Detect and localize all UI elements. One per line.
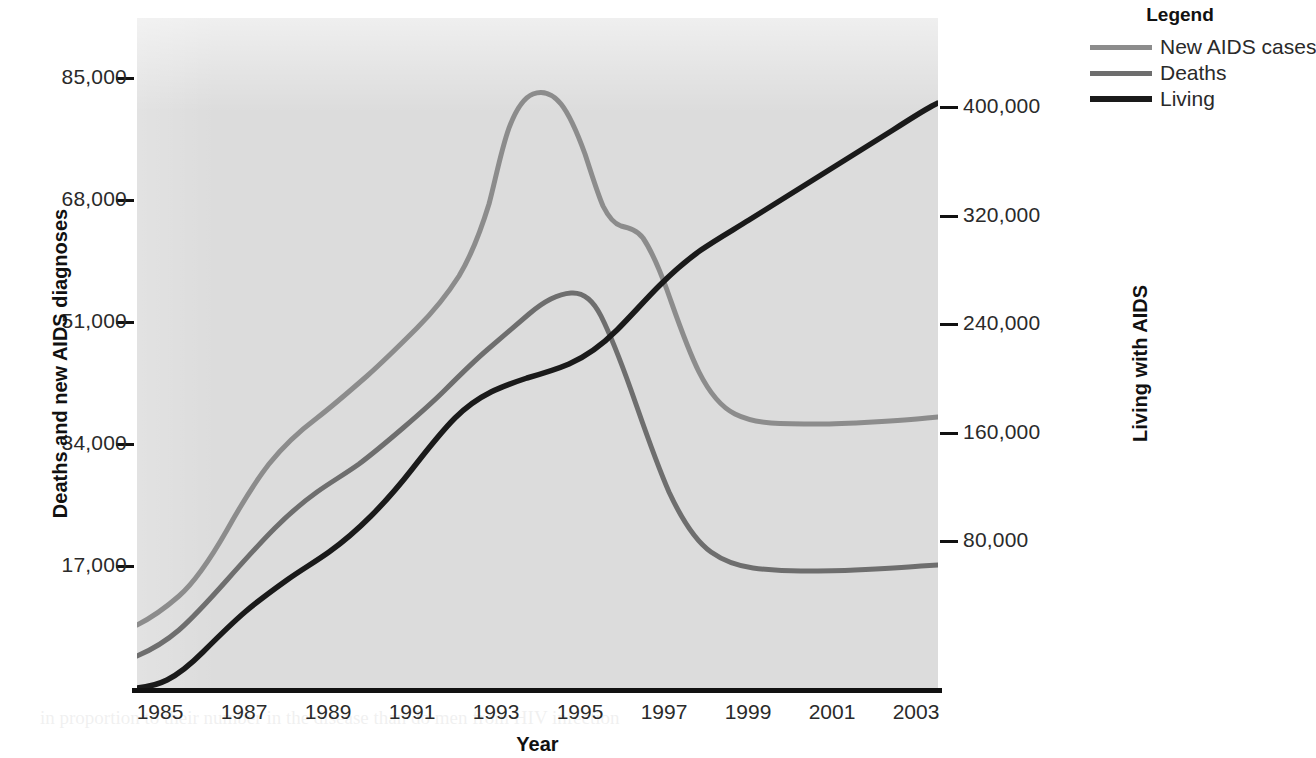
x-tick-label: 2003: [893, 700, 940, 724]
y-right-tick-mark: [940, 106, 958, 109]
legend-item-new-aids-cases: New AIDS cases: [1090, 34, 1308, 60]
legend-swatch-deaths: [1090, 71, 1152, 76]
legend-title: Legend: [1090, 4, 1270, 26]
y-right-tick-label: 320,000: [963, 203, 1040, 227]
legend-item-deaths: Deaths: [1090, 60, 1308, 86]
y-right-tick-mark: [940, 215, 958, 218]
x-tick-label: 1995: [557, 700, 604, 724]
legend-label-deaths: Deaths: [1160, 61, 1227, 85]
y-axis-right-title: Living with AIDS: [1129, 234, 1152, 494]
chart-curves: [137, 18, 938, 690]
x-tick-label: 1997: [641, 700, 688, 724]
legend-label-new-aids-cases: New AIDS cases: [1160, 35, 1316, 59]
legend-item-living: Living: [1090, 86, 1308, 112]
y-axis-left-title: Deaths and new AIDS diagnoses: [49, 194, 72, 534]
y-right-tick-label: 160,000: [963, 420, 1040, 444]
legend-swatch-new-aids-cases: [1090, 45, 1152, 50]
y-right-tick-mark: [940, 540, 958, 543]
x-axis-line: [132, 688, 942, 693]
x-tick-label: 2001: [809, 700, 856, 724]
y-right-tick-mark: [940, 323, 958, 326]
legend-swatch-living: [1090, 96, 1152, 102]
legend-label-living: Living: [1160, 87, 1215, 111]
x-tick-label: 1987: [221, 700, 268, 724]
y-left-tick-label: 17,000: [62, 553, 127, 577]
y-left-tick-label: 85,000: [62, 65, 127, 89]
x-tick-label: 1993: [473, 700, 520, 724]
series-path-living: [137, 103, 938, 688]
legend: Legend New AIDS cases Deaths Living: [1090, 4, 1308, 112]
y-right-tick-label: 240,000: [963, 311, 1040, 335]
y-right-tick-label: 80,000: [963, 528, 1028, 552]
y-right-tick-label: 400,000: [963, 94, 1040, 118]
x-tick-label: 1999: [725, 700, 772, 724]
x-tick-label: 1989: [305, 700, 352, 724]
x-tick-label: 1985: [137, 700, 184, 724]
x-tick-label: 1991: [389, 700, 436, 724]
x-axis-title: Year: [137, 733, 938, 756]
y-right-tick-mark: [940, 432, 958, 435]
